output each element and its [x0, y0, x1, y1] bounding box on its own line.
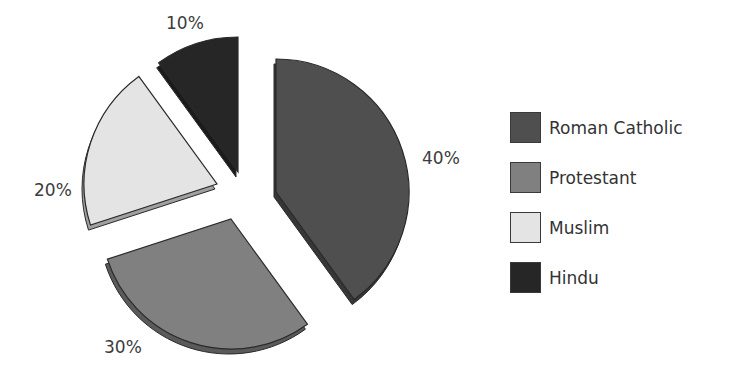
- legend-label: Hindu: [549, 268, 599, 288]
- label-protestant: 30%: [104, 337, 142, 357]
- legend-label: Muslim: [549, 218, 609, 238]
- legend-item-muslim: Muslim: [510, 211, 683, 244]
- swatch-roman-catholic: [510, 112, 541, 143]
- legend-item-protestant: Protestant: [510, 161, 683, 194]
- legend-item-hindu: Hindu: [510, 261, 683, 294]
- label-roman-catholic: 40%: [422, 148, 460, 168]
- legend-label: Roman Catholic: [549, 118, 683, 138]
- swatch-protestant: [510, 162, 541, 193]
- legend-item-roman-catholic: Roman Catholic: [510, 111, 683, 144]
- label-hindu: 10%: [166, 13, 204, 33]
- swatch-muslim: [510, 212, 541, 243]
- swatch-hindu: [510, 262, 541, 293]
- pie-slices: [82, 37, 409, 354]
- legend-label: Protestant: [549, 168, 636, 188]
- legend: Roman Catholic Protestant Muslim Hindu: [510, 111, 683, 311]
- slice-protestant: [107, 219, 307, 349]
- label-muslim: 20%: [34, 180, 72, 200]
